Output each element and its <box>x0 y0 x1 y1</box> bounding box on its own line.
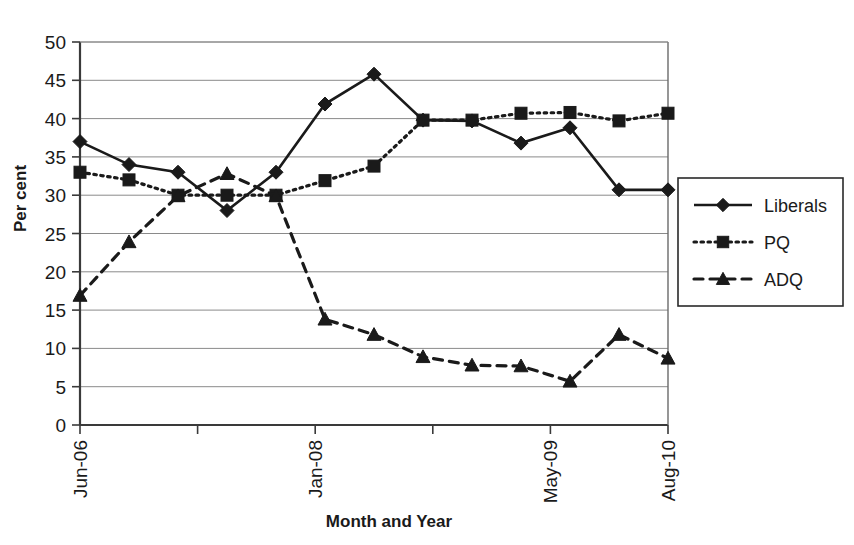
chart-canvas: 05101520253035404550 Jun-06Jan-08May-09A… <box>0 0 854 545</box>
x-tick-marks <box>80 425 668 434</box>
marker-square <box>123 174 135 186</box>
marker-diamond <box>122 158 136 172</box>
y-tick-label: 5 <box>55 377 66 398</box>
marker-square <box>417 114 429 126</box>
series-line-adq <box>80 174 668 382</box>
marker-square <box>613 115 625 127</box>
x-tick-labels: Jun-06Jan-08May-09Aug-10 <box>70 440 679 503</box>
marker-square <box>515 107 527 119</box>
y-tick-label: 35 <box>45 147 66 168</box>
data-series <box>73 67 675 387</box>
marker-diamond <box>514 136 528 150</box>
series-line-liberals <box>80 74 668 210</box>
x-tick-label: Jan-08 <box>305 440 326 498</box>
y-tick-label: 45 <box>45 70 66 91</box>
series-pq <box>74 106 674 201</box>
legend: LiberalsPQADQ <box>678 178 843 306</box>
y-tick-label: 40 <box>45 109 66 130</box>
line-chart: 05101520253035404550 Jun-06Jan-08May-09A… <box>0 0 854 545</box>
legend-label-liberals: Liberals <box>764 196 827 216</box>
y-tick-label: 10 <box>45 338 66 359</box>
marker-triangle <box>220 167 234 180</box>
marker-square <box>319 175 331 187</box>
y-tick-label: 30 <box>45 185 66 206</box>
marker-square <box>221 189 233 201</box>
y-tick-labels: 05101520253035404550 <box>45 32 66 436</box>
legend-label-pq: PQ <box>764 233 790 253</box>
marker-square <box>368 160 380 172</box>
x-tick-label: Aug-10 <box>658 440 679 501</box>
marker-square <box>662 107 674 119</box>
y-tick-label: 50 <box>45 32 66 53</box>
marker-diamond <box>73 135 87 149</box>
marker-square <box>74 166 86 178</box>
marker-square <box>564 106 576 118</box>
series-line-pq <box>80 112 668 195</box>
y-tick-label: 25 <box>45 224 66 245</box>
marker-triangle <box>318 312 332 325</box>
x-tick-label: May-09 <box>540 440 561 503</box>
y-tick-label: 20 <box>45 262 66 283</box>
series-adq <box>73 167 675 387</box>
y-axis-title: Per cent <box>11 165 30 232</box>
legend-label-adq: ADQ <box>764 270 803 290</box>
y-tick-marks <box>72 42 80 425</box>
x-tick-label: Jun-06 <box>70 440 91 498</box>
x-axis-title: Month and Year <box>326 512 453 531</box>
marker-square <box>717 236 728 247</box>
y-tick-label: 15 <box>45 300 66 321</box>
marker-triangle <box>612 328 626 341</box>
marker-square <box>466 114 478 126</box>
marker-triangle <box>367 328 381 341</box>
y-tick-label: 0 <box>55 415 66 436</box>
